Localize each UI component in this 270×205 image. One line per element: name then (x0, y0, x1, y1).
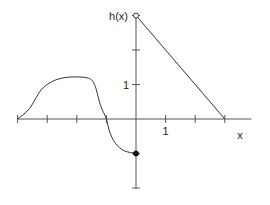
y-axis-label: h(x) (109, 10, 128, 22)
open-point-marker (134, 13, 139, 18)
x-axis-label: x (237, 129, 243, 141)
h-right-line (136, 16, 225, 120)
chart: 11 h(x) x (0, 0, 270, 205)
closed-point-marker (134, 151, 139, 156)
y-tick-label: 1 (123, 79, 129, 91)
x-tick-label: 1 (163, 125, 169, 137)
